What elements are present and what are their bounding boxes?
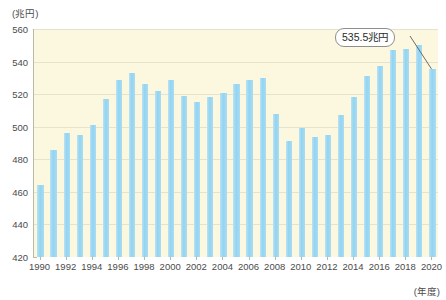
bar [233, 84, 239, 257]
bar [246, 80, 252, 258]
x-axis-tick-label: 2006 [238, 261, 259, 272]
x-axis-tick-label: 2004 [212, 261, 233, 272]
bar [377, 66, 383, 257]
bar [220, 93, 226, 257]
bar [129, 73, 135, 257]
bar [338, 115, 344, 257]
x-axis-tick-mark [40, 257, 41, 260]
x-axis-tick-label: 1994 [81, 261, 102, 272]
x-axis-tick-mark [222, 257, 223, 260]
x-axis-tick-label: 2020 [421, 261, 442, 272]
bar [90, 125, 96, 257]
x-axis-tick-label: 1992 [55, 261, 76, 272]
bar [286, 141, 292, 257]
x-axis-tick-mark [249, 257, 250, 260]
y-axis-tick-label: 560 [0, 24, 33, 35]
bar [116, 80, 122, 258]
bar [351, 97, 357, 257]
bar [155, 91, 161, 257]
x-axis-tick-mark [196, 257, 197, 260]
bar [103, 99, 109, 257]
y-axis-tick-label: 520 [0, 89, 33, 100]
y-axis-tick-label: 440 [0, 219, 33, 230]
x-axis-tick-label: 2010 [290, 261, 311, 272]
bar [207, 97, 213, 257]
bar [142, 84, 148, 257]
y-axis-tick-label: 460 [0, 186, 33, 197]
x-axis-tick-mark [118, 257, 119, 260]
x-axis-tick-mark [301, 257, 302, 260]
plot-area [33, 29, 438, 257]
x-axis-tick-label: 1998 [133, 261, 154, 272]
x-axis-tick-label: 2016 [369, 261, 390, 272]
y-axis-unit-label: (兆円) [12, 6, 38, 20]
value-callout: 535.5兆円 [335, 28, 395, 47]
x-axis-tick-mark [327, 257, 328, 260]
bar [37, 185, 43, 257]
x-axis-tick-label: 2018 [395, 261, 416, 272]
x-axis-tick-mark [170, 257, 171, 260]
x-axis-tick-label: 2000 [160, 261, 181, 272]
bar [77, 135, 83, 257]
bar [273, 114, 279, 257]
x-axis: 1990199219941996199820002002200420062008… [33, 257, 438, 279]
bar [325, 135, 331, 257]
x-axis-tick-mark [431, 257, 432, 260]
x-axis-tick-mark [405, 257, 406, 260]
bar [312, 137, 318, 258]
x-axis-tick-label: 1996 [107, 261, 128, 272]
x-axis-tick-mark [66, 257, 67, 260]
bar [403, 49, 409, 257]
x-axis-tick-label: 2012 [316, 261, 337, 272]
bar [64, 133, 70, 257]
bar [299, 128, 305, 257]
x-axis-tick-mark [353, 257, 354, 260]
bar [416, 45, 422, 257]
x-axis-tick-label: 2014 [343, 261, 364, 272]
y-axis: 420440460480500520540560 [0, 29, 33, 257]
x-axis-tick-mark [92, 257, 93, 260]
bar [194, 102, 200, 257]
x-axis-tick-label: 2008 [264, 261, 285, 272]
x-axis-tick-mark [275, 257, 276, 260]
bar [364, 76, 370, 257]
x-axis-tick-mark [144, 257, 145, 260]
x-axis-tick-label: 2002 [186, 261, 207, 272]
x-axis-tick-label: 1990 [29, 261, 50, 272]
bar [181, 96, 187, 257]
bar [429, 69, 435, 257]
chart-container: (兆円) 420440460480500520540560 1990199219… [0, 0, 446, 300]
y-axis-tick-label: 540 [0, 56, 33, 67]
bar [260, 78, 266, 257]
bar [390, 50, 396, 257]
bar-series [34, 29, 438, 257]
x-axis-unit-label: (年度) [414, 284, 440, 298]
y-axis-tick-label: 500 [0, 121, 33, 132]
bar [50, 150, 56, 257]
x-axis-tick-mark [379, 257, 380, 260]
bar [168, 80, 174, 258]
y-axis-tick-label: 480 [0, 154, 33, 165]
